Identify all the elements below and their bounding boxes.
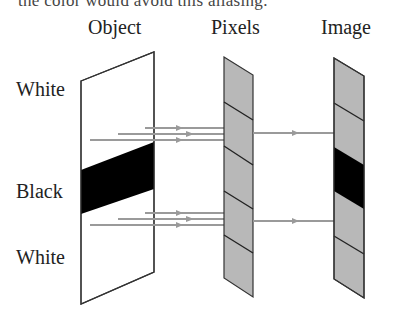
- rays-to-image: [253, 130, 334, 224]
- aliasing-diagram: [0, 0, 396, 318]
- pixels-strip: [224, 57, 253, 297]
- object-panel: [81, 52, 154, 304]
- image-strip: [334, 58, 364, 298]
